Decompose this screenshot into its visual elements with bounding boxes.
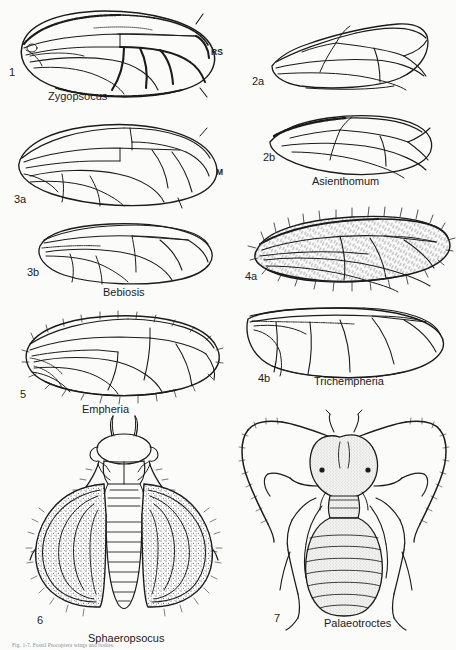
fig6-sphaeropsocus-body <box>26 416 222 616</box>
figure-number-4b: 4b <box>258 373 270 384</box>
figure-number-3b: 3b <box>27 267 39 278</box>
figure-taxon-palaeotroctes: Palaeotroctes <box>324 618 391 629</box>
figure-number-7: 7 <box>274 613 280 624</box>
plate-caption: Fig. 1-7. Fossil Psocoptera wings and bo… <box>12 642 448 650</box>
vein-label-m: M <box>216 168 223 177</box>
figure-number-3a: 3a <box>14 194 26 205</box>
fig1-zygopsocus-wing <box>21 11 214 97</box>
fig3b-wing <box>39 224 212 284</box>
fig4b-wing <box>247 308 443 378</box>
fig2a-wing <box>272 24 428 90</box>
fig2b-wing <box>270 116 432 178</box>
figure-plate: 1 Zygopsocus RS 2a 2b Asienthomum 3a M 3… <box>0 0 456 650</box>
fig3a-wing <box>19 125 217 208</box>
figure-taxon-empheria: Empheria <box>82 404 129 415</box>
fig5-empheria-wing <box>22 311 223 404</box>
figure-taxon-asienthomum: Asienthomum <box>312 176 379 187</box>
vein-label-rs: RS <box>211 48 223 57</box>
figure-taxon-zygopsocus: Zygopsocus <box>48 91 107 102</box>
figure-number-2a: 2a <box>252 76 264 87</box>
figure-number-6: 6 <box>37 615 43 626</box>
figure-taxon-trichempheria: Trichempheria <box>314 376 384 387</box>
fig4a-wing-setose <box>248 207 455 292</box>
figure-number-5: 5 <box>20 389 26 400</box>
figure-number-1: 1 <box>9 67 15 78</box>
figure-taxon-bebiosis: Bebiosis <box>103 287 145 298</box>
fig7-palaeotroctes-body <box>239 410 449 630</box>
figure-number-4a: 4a <box>245 271 257 282</box>
figure-number-2b: 2b <box>263 152 275 163</box>
